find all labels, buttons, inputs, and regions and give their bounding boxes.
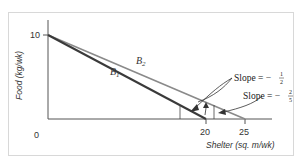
slope2-annotation: Slope = − xyxy=(243,91,280,101)
budget-line-b2 xyxy=(48,35,245,119)
label-b2: B2 xyxy=(136,55,146,68)
slope1-leader xyxy=(195,78,232,108)
x-tick-label-20: 20 xyxy=(200,127,210,137)
slope1-numerator: 1 xyxy=(280,71,283,77)
budget-line-chart: 10 0 20 25 Food (kg/wk) Shelter (sq. m/w… xyxy=(0,0,302,166)
slope1-arrow-up xyxy=(205,108,206,115)
origin-label: 0 xyxy=(34,130,39,140)
x-axis-title: Shelter (sq. m/wk) xyxy=(206,140,275,150)
label-b1: B1 xyxy=(110,66,120,79)
y-axis-title: Food (kg/wk) xyxy=(14,51,24,100)
slope2-numerator: 2 xyxy=(289,89,292,95)
y-tick-label-10: 10 xyxy=(30,30,40,40)
slope1-denominator: 2 xyxy=(280,79,283,85)
x-tick-label-25: 25 xyxy=(239,127,249,137)
slope2-denominator: 5 xyxy=(289,97,292,103)
budget-line-b1 xyxy=(48,35,206,119)
slope1-annotation: Slope = − xyxy=(234,73,271,83)
